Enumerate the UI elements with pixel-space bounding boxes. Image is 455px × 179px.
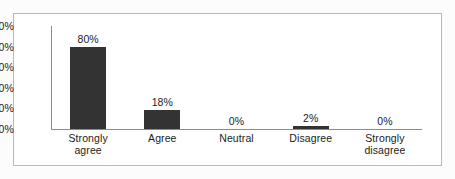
y-tick-label-40: 40% bbox=[0, 83, 14, 93]
chart-frame: 100% 80% 60% 40% 20% 0% 80% 18% 0% 2% 0% bbox=[13, 13, 442, 166]
bar-column-agree: 18% bbox=[125, 26, 199, 129]
category-label-agree: Agree bbox=[125, 132, 199, 156]
category-label-line: Strongly bbox=[51, 132, 125, 144]
x-axis-line bbox=[51, 129, 422, 130]
category-label-strongly-agree: Strongly agree bbox=[51, 132, 125, 156]
bar-agree bbox=[144, 110, 180, 129]
bar-column-neutral: 0% bbox=[199, 26, 273, 129]
bar-value-label-strongly-agree: 80% bbox=[77, 34, 98, 45]
bar-column-strongly-disagree: 0% bbox=[348, 26, 422, 129]
bar-column-disagree: 2% bbox=[274, 26, 348, 129]
y-tick-label-60: 60% bbox=[0, 62, 14, 72]
category-label-line: agree bbox=[51, 144, 125, 156]
bar-value-label-disagree: 2% bbox=[303, 113, 318, 124]
y-tick-label-0: 0% bbox=[0, 124, 14, 134]
y-axis-tick-labels: 100% 80% 60% 40% 20% 0% bbox=[0, 26, 14, 129]
category-label-line: Agree bbox=[125, 132, 199, 144]
category-label-neutral: Neutral bbox=[199, 132, 273, 156]
bar-value-label-strongly-disagree: 0% bbox=[377, 116, 392, 127]
y-tick-label-20: 20% bbox=[0, 103, 14, 113]
category-label-line: Disagree bbox=[274, 132, 348, 144]
category-label-line: Neutral bbox=[199, 132, 273, 144]
category-label-line: Strongly bbox=[348, 132, 422, 144]
category-label-disagree: Disagree bbox=[274, 132, 348, 156]
category-label-strongly-disagree: Strongly disagree bbox=[348, 132, 422, 156]
bar-series: 80% 18% 0% 2% 0% bbox=[51, 26, 422, 129]
bar-column-strongly-agree: 80% bbox=[51, 26, 125, 129]
bar-value-label-neutral: 0% bbox=[229, 116, 244, 127]
y-tick-label-100: 100% bbox=[0, 21, 14, 31]
bar-value-label-agree: 18% bbox=[152, 97, 173, 108]
bar-disagree bbox=[293, 126, 329, 129]
x-axis-category-labels: Strongly agree Agree Neutral Disagree St… bbox=[51, 132, 422, 156]
y-tick-label-80: 80% bbox=[0, 42, 14, 52]
bar-strongly-agree bbox=[70, 47, 106, 129]
category-label-line: disagree bbox=[348, 144, 422, 156]
